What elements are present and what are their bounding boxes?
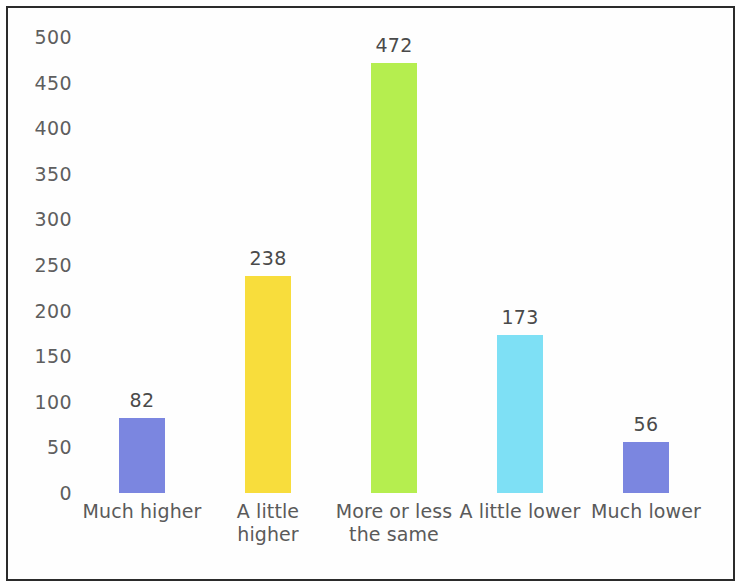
bar: 173 [497,335,543,493]
y-axis-tick-label: 50 [14,438,72,457]
plot-area: 500450400350300250200150100500 822384721… [0,0,741,587]
bar-value-label: 56 [634,415,659,434]
y-axis-tick-label: 450 [14,73,72,92]
y-axis-tick-label: 150 [14,347,72,366]
bar-rect [623,442,669,493]
bar: 472 [371,63,417,493]
x-axis-category-label: A little lower [457,500,583,523]
bar: 56 [623,442,669,493]
y-axis-tick-label: 400 [14,119,72,138]
y-axis-tick-label: 100 [14,392,72,411]
y-axis-tick-label: 250 [14,256,72,275]
x-axis-category-label: A little higher [205,500,331,546]
y-axis-tick-label: 500 [14,28,72,47]
bar-value-label: 472 [375,36,412,55]
y-axis-tick-label: 200 [14,301,72,320]
bar-rect [245,276,291,493]
bar-value-label: 82 [130,391,155,410]
bar-rect [371,63,417,493]
bar: 238 [245,276,291,493]
bar-rect [119,418,165,493]
bar-value-label: 173 [501,308,538,327]
y-axis-tick-label: 300 [14,210,72,229]
bar-value-label: 238 [249,249,286,268]
x-axis-category-label: More or less the same [331,500,457,546]
y-axis-tick-label: 350 [14,164,72,183]
x-axis-category-label: Much lower [583,500,709,523]
x-axis-category-label: Much higher [79,500,205,523]
y-axis-tick-label: 0 [14,484,72,503]
bar-rect [497,335,543,493]
bar: 82 [119,418,165,493]
bar-chart-figure: 500450400350300250200150100500 822384721… [0,0,741,587]
